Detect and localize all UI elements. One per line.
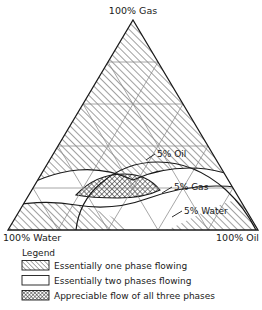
- corner-label-oil: 100% Oil: [216, 232, 259, 243]
- curve-label-5pct-water: 5% Water: [184, 206, 228, 216]
- legend-item-three-phase: Appreciable flow of all three phases: [22, 291, 215, 302]
- one-phase-regions: [8, 20, 258, 230]
- leader-line-5pct-water: [172, 211, 182, 217]
- corner-label-water: 100% Water: [3, 232, 61, 243]
- legend: Legend Essentially one phase flowing Ess…: [22, 248, 215, 301]
- legend-swatch-diagonal-hatch: [22, 261, 49, 271]
- ternary-phase-diagram: 5% Oil 5% Gas 5% Water 100% Gas 100% Wat…: [0, 0, 262, 310]
- three-phase-region: [76, 174, 160, 198]
- corner-label-gas: 100% Gas: [109, 5, 157, 16]
- curve-label-5pct-gas: 5% Gas: [174, 182, 209, 192]
- legend-label-two-phase: Essentially two phases flowing: [54, 276, 191, 286]
- curve-label-5pct-oil: 5% Oil: [157, 149, 186, 159]
- three-phase-lens: [76, 174, 160, 198]
- legend-title: Legend: [22, 248, 55, 258]
- one-phase-region-gas: [8, 20, 258, 230]
- legend-item-one-phase: Essentially one phase flowing: [22, 261, 187, 272]
- legend-swatch-cross-hatch: [22, 291, 49, 301]
- legend-label-three-phase: Appreciable flow of all three phases: [54, 291, 215, 301]
- legend-item-two-phase: Essentially two phases flowing: [22, 276, 191, 287]
- legend-label-one-phase: Essentially one phase flowing: [54, 261, 187, 271]
- legend-swatch-blank: [22, 276, 49, 286]
- ternary-diagram-root: 5% Oil 5% Gas 5% Water 100% Gas 100% Wat…: [0, 0, 262, 310]
